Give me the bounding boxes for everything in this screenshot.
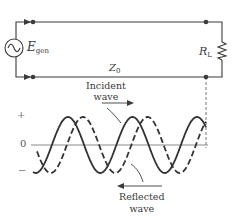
source-label-sub: gen: [36, 47, 49, 55]
right-arrow-icon: [127, 100, 134, 106]
sine-glyph-icon: [8, 44, 20, 52]
source-label: Egen: [27, 40, 49, 55]
reflected-label-line1: Reflected: [119, 191, 165, 203]
source-label-main: E: [27, 40, 36, 54]
transmission-line-diagram: [0, 0, 237, 223]
source-terminal-arrow-top: [24, 19, 31, 25]
load-terminal-dot-top: [204, 20, 209, 25]
impedance-label-main: Z: [109, 62, 116, 73]
source-terminal-arrow-bottom: [24, 74, 31, 80]
incident-label-line1: Incident: [86, 80, 126, 91]
axis-minus-label: −: [18, 165, 26, 176]
reflected-label-line2: wave: [119, 203, 165, 215]
wave-plot: [31, 117, 208, 173]
left-arrow-icon: [117, 183, 124, 189]
axis-plus-label: +: [17, 109, 25, 120]
incident-label-line2: wave: [86, 91, 126, 102]
reflected-wave-label: Reflected wave: [119, 191, 165, 215]
resistor-icon: [218, 42, 226, 60]
top-wire: [16, 22, 222, 42]
impedance-label-sub: 0: [116, 67, 120, 75]
axis-zero-label: 0: [20, 138, 26, 149]
source-terminal-dot-bottom: [31, 75, 36, 80]
incident-wave-label: Incident wave: [86, 80, 126, 102]
source-terminal-dot-top: [31, 20, 36, 25]
incident-leader-line: [107, 108, 121, 123]
load-label: RL: [199, 45, 212, 59]
load-terminal-dot-bottom: [204, 75, 209, 80]
load-label-sub: L: [207, 51, 212, 59]
impedance-label: Z0: [109, 62, 120, 75]
reflected-leader-line: [131, 164, 143, 182]
